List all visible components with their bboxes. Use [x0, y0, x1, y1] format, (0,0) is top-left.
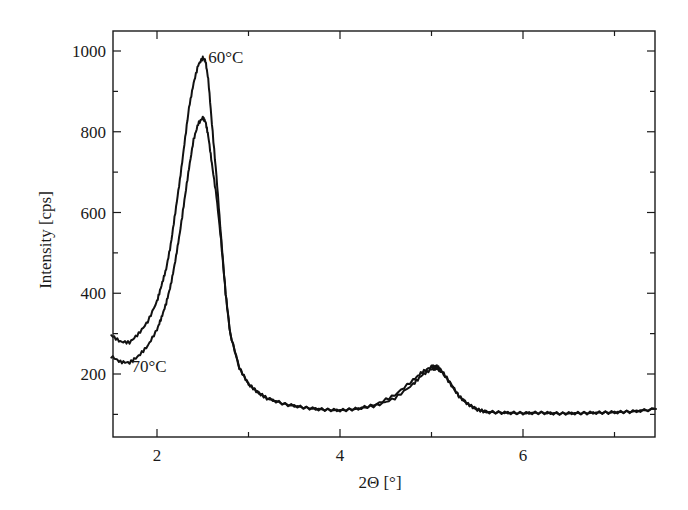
y-tick-label: 400 [81, 284, 107, 303]
annotation-60c: 60°C [208, 48, 243, 67]
x-tick-label: 6 [519, 446, 528, 465]
y-tick-label: 200 [81, 365, 107, 384]
xrd-chart: 2462004006008001000 2Θ [°] Intensity [cp… [0, 0, 688, 510]
y-tick-label: 1000 [72, 42, 106, 61]
axis-ticks [113, 31, 655, 437]
x-tick-label: 2 [153, 446, 162, 465]
y-tick-label: 600 [81, 204, 107, 223]
y-axis-label: Intensity [cps] [36, 191, 55, 289]
axis-tick-labels: 2462004006008001000 [72, 42, 527, 465]
y-tick-label: 800 [81, 123, 107, 142]
series-60c-line [111, 57, 655, 415]
plot-frame [113, 31, 655, 437]
series-70c-line [111, 117, 655, 415]
x-axis-label: 2Θ [°] [358, 473, 401, 492]
data-series [111, 57, 655, 415]
annotation-70c: 70°C [131, 357, 166, 376]
x-tick-label: 4 [336, 446, 345, 465]
